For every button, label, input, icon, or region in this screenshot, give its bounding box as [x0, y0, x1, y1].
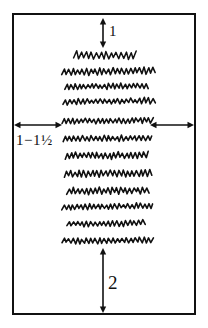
- bottom-margin-arrow: [100, 248, 106, 313]
- diagram-canvas: 1 2 1−1½: [0, 0, 208, 328]
- top-margin-arrow: [100, 18, 106, 48]
- side-margin-label: 1−1½: [16, 133, 53, 148]
- top-margin-label: 1: [109, 24, 117, 39]
- right-margin-arrow: [150, 122, 194, 128]
- left-margin-arrow: [14, 122, 62, 128]
- bottom-margin-label: 2: [108, 273, 118, 292]
